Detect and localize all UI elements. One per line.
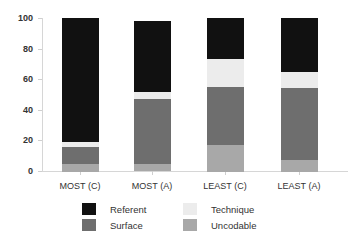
x-label-least-c: LEAST (C) [185,181,265,191]
legend-swatch-referent [82,203,96,215]
bar-segment-technique [281,72,318,88]
bar-least-a [281,18,318,172]
x-tick [225,171,226,175]
y-tick [38,140,42,141]
bar-least-c [207,18,244,172]
y-tick [38,110,42,111]
legend-swatch-technique [183,203,197,215]
legend-label: Uncodable [211,220,256,231]
x-tick [152,171,153,175]
bar-segment-surface [281,88,318,160]
y-tick-label-80: 80 [0,44,33,54]
y-tick-label-0: 0 [0,166,33,176]
y-tick [38,79,42,80]
bar-segment-uncodable [62,164,99,172]
x-tick [80,171,81,175]
x-label-least-a: LEAST (A) [259,181,339,191]
bar-segment-uncodable [281,160,318,172]
bar-segment-referent [62,18,99,142]
bar-most-c [62,18,99,172]
x-label-most-c: MOST (C) [40,181,120,191]
bar-segment-referent [207,18,244,59]
y-axis [42,18,43,172]
legend-item-uncodable: Uncodable [183,219,256,231]
legend-label: Referent [110,204,146,215]
legend-item-surface: Surface [82,219,143,231]
bar-most-a [134,21,171,171]
y-tick [38,171,42,172]
y-tick-label-100: 100 [0,13,33,23]
bar-segment-uncodable [207,145,244,171]
x-tick [299,171,300,175]
bar-segment-surface [62,147,99,164]
bar-segment-surface [207,87,244,145]
legend-item-technique: Technique [183,203,254,215]
legend: Referent Technique Surface Uncodable [82,203,292,239]
bar-segment-referent [134,21,171,92]
bar-segment-technique [207,59,244,87]
x-label-most-a: MOST (A) [112,181,192,191]
y-tick [38,18,42,19]
y-tick-label-20: 20 [0,135,33,145]
legend-label: Surface [110,220,143,231]
legend-item-referent: Referent [82,203,146,215]
bar-segment-technique [134,92,171,100]
bar-segment-referent [281,18,318,72]
stacked-bar-chart: 0 20 40 60 80 100 MOST (C) MOST (A) LEAS… [0,0,351,200]
legend-label: Technique [211,204,254,215]
y-tick-label-40: 40 [0,105,33,115]
legend-swatch-surface [82,219,96,231]
y-tick [38,49,42,50]
bar-segment-surface [134,99,171,163]
y-tick-label-60: 60 [0,74,33,84]
legend-swatch-uncodable [183,219,197,231]
bar-segment-uncodable [134,164,171,172]
